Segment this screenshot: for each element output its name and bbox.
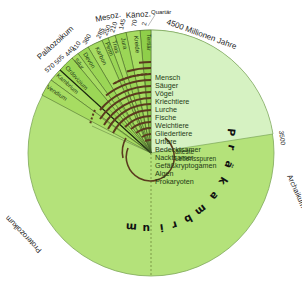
svg-text:2: 2 xyxy=(140,21,148,26)
era-quartaer: Quartär xyxy=(151,9,171,15)
svg-text:Karbon: Karbon xyxy=(94,46,108,66)
era-proterozoikum: Proterozoikum xyxy=(3,214,43,255)
svg-text:u: u xyxy=(143,223,150,235)
svg-text:Prokaryoten: Prokaryoten xyxy=(155,177,194,186)
svg-text:3500: 3500 xyxy=(278,130,287,146)
era-kaenozoikum: Känoz. xyxy=(126,9,151,20)
svg-text:Silur: Silur xyxy=(73,57,85,70)
era-mesozoikum: Mesoz. xyxy=(95,10,122,24)
oldest-life-label-2: Lebensspuren xyxy=(175,155,217,163)
svg-text:ä: ä xyxy=(222,159,236,170)
svg-text:m: m xyxy=(193,202,209,218)
svg-text:k: k xyxy=(216,175,230,188)
period-labels: Tertiär Kreide Jura Trias Perm Karbon De… xyxy=(45,34,152,102)
oldest-life-label-1: älteste xyxy=(175,148,195,155)
svg-text:Tertiär: Tertiär xyxy=(146,34,152,51)
svg-text:b: b xyxy=(182,212,195,226)
svg-text:360: 360 xyxy=(81,32,93,45)
era-archaikum: Archaikum xyxy=(285,173,302,209)
svg-text:Vendium: Vendium xyxy=(45,84,68,102)
svg-text:Kreide: Kreide xyxy=(133,35,141,54)
total-duration-label: 4500 Millionen Jahre xyxy=(165,17,238,51)
svg-text:a: a xyxy=(208,190,222,203)
svg-text:i: i xyxy=(159,222,164,234)
svg-text:r: r xyxy=(170,219,179,232)
svg-text:P: P xyxy=(225,128,238,137)
svg-text:m: m xyxy=(125,221,137,234)
svg-text:Jura: Jura xyxy=(120,37,128,50)
svg-text:r: r xyxy=(226,144,239,153)
svg-text:70: 70 xyxy=(130,19,138,28)
diagram-labels: Bedecktsamer Nacktsamer Gefäßkryptogamen… xyxy=(0,0,302,282)
